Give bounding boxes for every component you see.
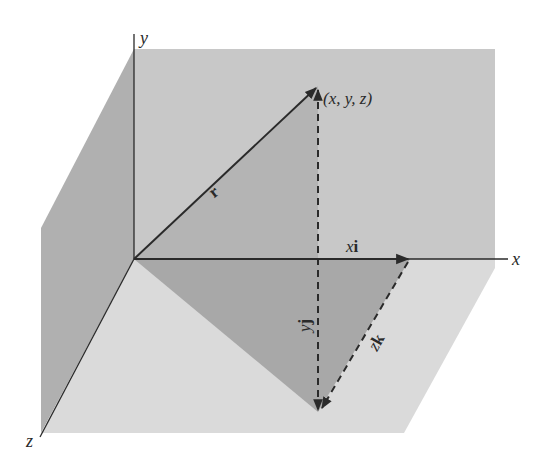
z-axis-label: z xyxy=(25,431,33,451)
y-axis-label: y xyxy=(138,28,148,48)
xi-vector-label: xi xyxy=(345,237,359,256)
point-label: (x, y, z) xyxy=(323,89,372,108)
yj-vector-label: yj xyxy=(295,319,314,334)
x-axis-label: x xyxy=(511,249,520,269)
vector-diagram: y x z (x, y, z) r xi yj zk xyxy=(0,0,553,470)
